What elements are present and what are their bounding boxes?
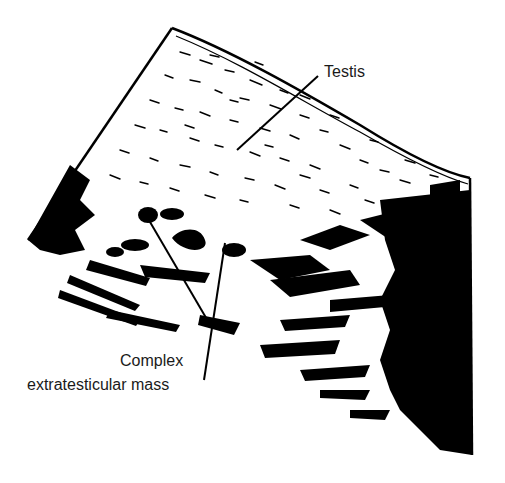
leader-lines	[143, 76, 318, 380]
mass-label-line1: Complex	[120, 352, 183, 370]
testis-label: Testis	[324, 63, 365, 81]
mass-leader-line-2	[204, 243, 225, 380]
mass-label-line2: extratesticular mass	[27, 376, 169, 394]
testis-leader-line	[237, 76, 318, 150]
extratesticular-echoes	[28, 165, 472, 455]
ultrasound-drawing	[0, 0, 505, 483]
